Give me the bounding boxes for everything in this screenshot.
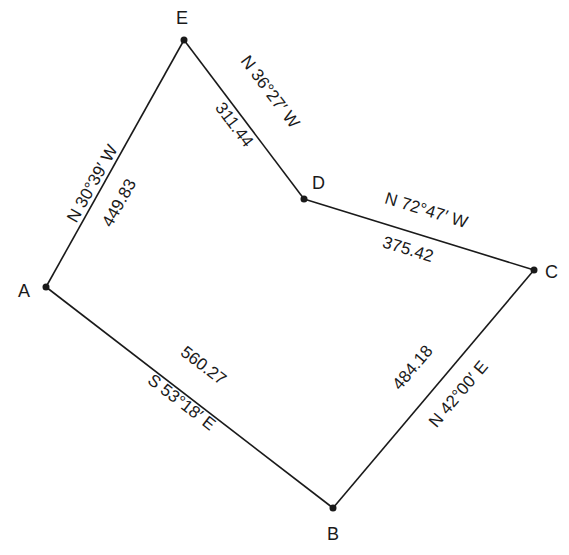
point-a-marker: [43, 284, 50, 291]
edge-b-c: [333, 270, 534, 508]
point-c-label: C: [545, 262, 558, 282]
point-d-label: D: [312, 173, 325, 193]
point-b-marker: [330, 505, 337, 512]
point-a-label: A: [18, 281, 30, 301]
point-d-marker: [301, 196, 308, 203]
point-e-label: E: [176, 8, 188, 28]
traverse-diagram: A B C D E N 30°39′ W 449.83 N 36°27′ W 3…: [0, 0, 569, 555]
point-c-marker: [531, 267, 538, 274]
cd-bearing-label: N 72°47′ W: [383, 189, 470, 232]
point-e-marker: [181, 37, 188, 44]
point-b-label: B: [327, 524, 339, 544]
bc-distance-label: 484.18: [389, 342, 437, 394]
bc-bearing-label: N 42°00′ E: [425, 357, 492, 431]
ab-distance-label: 560.27: [177, 342, 230, 389]
de-bearing-label: N 36°27′ W: [237, 52, 304, 132]
edge-e-a: [46, 40, 184, 287]
